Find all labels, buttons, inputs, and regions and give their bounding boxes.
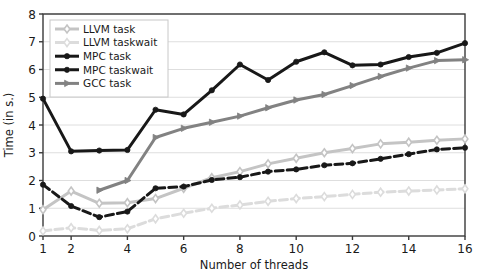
- y-tick-label: 3: [28, 146, 36, 160]
- x-tick-label: 6: [180, 242, 188, 256]
- x-tick-label: 16: [457, 242, 472, 256]
- legend-label: LLVM task: [83, 23, 136, 35]
- x-axis-label: Number of threads: [200, 258, 308, 272]
- legend-label: LLVM taskwait: [83, 36, 157, 48]
- chart-container: 0123456781246810121416 Number of threads…: [0, 0, 485, 278]
- axis-labels-layer: Number of threadsTime (in s.): [2, 93, 308, 272]
- x-tick-label: 4: [124, 242, 132, 256]
- x-tick-label: 12: [345, 242, 360, 256]
- x-tick-label: 14: [401, 242, 416, 256]
- y-tick-label: 4: [28, 119, 36, 133]
- y-tick-label: 1: [28, 202, 36, 216]
- legend-label: GCC task: [83, 77, 132, 89]
- line-chart: 0123456781246810121416 Number of threads…: [0, 0, 485, 278]
- y-axis-label: Time (in s.): [2, 93, 16, 159]
- chart-legend: LLVM taskLLVM taskwaitMPC taskMPC taskwa…: [50, 20, 168, 97]
- legend-label: MPC taskwait: [83, 64, 153, 76]
- y-tick-label: 5: [28, 91, 36, 105]
- legend-label: MPC task: [83, 50, 132, 62]
- x-tick-label: 8: [236, 242, 244, 256]
- series-llvm-taskwait: [40, 185, 468, 235]
- x-tick-label: 1: [39, 242, 47, 256]
- x-tick-label: 2: [67, 242, 75, 256]
- x-tick-label: 10: [289, 242, 304, 256]
- y-tick-label: 2: [28, 174, 36, 188]
- y-tick-label: 0: [28, 230, 36, 244]
- y-tick-label: 8: [28, 8, 36, 22]
- y-tick-label: 6: [28, 63, 36, 77]
- legend-item-llvm-task[interactable]: LLVM task: [55, 23, 136, 35]
- y-tick-label: 7: [28, 35, 36, 49]
